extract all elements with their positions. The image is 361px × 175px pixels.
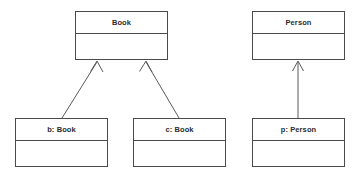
uml-class-book-title: Book xyxy=(76,12,167,34)
uml-class-person-title: Person xyxy=(253,12,344,34)
uml-object-p-person[interactable]: p: Person xyxy=(252,118,345,167)
uml-object-b-book[interactable]: b: Book xyxy=(15,118,108,167)
uml-diagram-canvas: Book Person b: Book c: Book p: Person xyxy=(0,0,361,175)
uml-object-c-book-attributes xyxy=(134,141,225,167)
edge-c-to-book[interactable] xyxy=(140,61,180,118)
uml-class-person[interactable]: Person xyxy=(252,11,345,60)
uml-class-person-attributes xyxy=(253,34,344,60)
arrow-head-open-v-c xyxy=(140,61,153,72)
uml-class-book[interactable]: Book xyxy=(75,11,168,60)
edge-b-to-book[interactable] xyxy=(62,61,103,118)
uml-object-b-book-title: b: Book xyxy=(16,119,107,141)
uml-class-book-attributes xyxy=(76,34,167,60)
uml-object-c-book[interactable]: c: Book xyxy=(133,118,226,167)
uml-object-p-person-attributes xyxy=(253,141,344,167)
uml-object-p-person-title: p: Person xyxy=(253,119,344,141)
uml-object-b-book-attributes xyxy=(16,141,107,167)
edge-p-to-person[interactable] xyxy=(293,61,304,118)
uml-object-c-book-title: c: Book xyxy=(134,119,225,141)
